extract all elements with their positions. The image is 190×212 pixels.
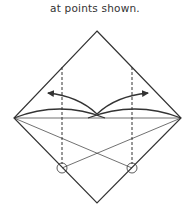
arrow-right-icon: [97, 93, 148, 114]
fold-diagram: [0, 0, 190, 212]
paper-diamond-outline: [14, 31, 181, 203]
arrow-left-icon: [48, 93, 97, 114]
crease-left-to-right-point: [14, 118, 132, 168]
crease-right-to-left-point: [62, 118, 181, 168]
